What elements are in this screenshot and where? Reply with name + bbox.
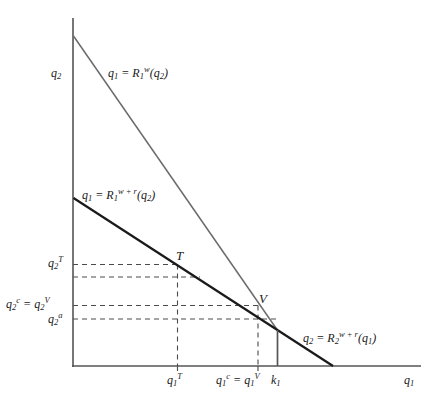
y-axis-sub: 2 — [57, 71, 62, 81]
q2a-sup: a — [58, 310, 62, 320]
diagram-canvas: q1 = R1w(q2) q1 = R1w + r(q2) q2 = R2w +… — [0, 0, 435, 405]
q2T-sup: T — [58, 254, 64, 264]
q2c-equals: = — [20, 297, 34, 311]
r1wr-arg-close: ) — [150, 188, 155, 202]
dashed-guides-group — [73, 265, 279, 367]
point-label-V: V — [259, 291, 269, 306]
r2wr-fn-sup: w + r — [339, 329, 359, 339]
y-axis-label: q2 — [51, 66, 62, 81]
r2wr-arg-close: ) — [371, 331, 376, 345]
q1T-sup: T — [177, 371, 183, 381]
xtick-label-k1: k1 — [271, 373, 281, 388]
curve-label-r2-wr: q2 = R2w + r(q1) — [303, 329, 376, 346]
r1w-equals: = — [118, 66, 132, 80]
k1-sub: 1 — [276, 378, 280, 388]
xtick-label-q1c-q1V: q1c = q1V — [216, 371, 261, 388]
curve-label-r1-wr: q1 = R1w + r(q2) — [82, 186, 155, 203]
xtick-label-q1T: q1T — [167, 371, 183, 388]
r1wr-equals: = — [92, 188, 106, 202]
curve-r1-w — [74, 36, 279, 331]
curve-label-r1-w: q1 = R1w(q2) — [108, 64, 168, 81]
x-axis-label: q1 — [404, 373, 414, 388]
point-label-T: T — [176, 248, 184, 263]
ytick-label-q2T: q2T — [48, 254, 64, 271]
q2V-sup: V — [44, 295, 51, 305]
r1wr-fn-sup: w + r — [118, 186, 138, 196]
ytick-label-q2c-q2V: q2c = q2V — [6, 295, 51, 312]
x-axis-sub: 1 — [410, 378, 414, 388]
r2wr-equals: = — [313, 331, 327, 345]
r1w-arg-close: ) — [163, 66, 168, 80]
ytick-label-q2a: q2a — [48, 310, 63, 327]
q1c-equals: = — [230, 373, 244, 387]
q1V-sup: V — [254, 371, 261, 381]
reaction-function-diagram: q1 = R1w(q2) q1 = R1w + r(q2) q2 = R2w +… — [0, 0, 435, 405]
